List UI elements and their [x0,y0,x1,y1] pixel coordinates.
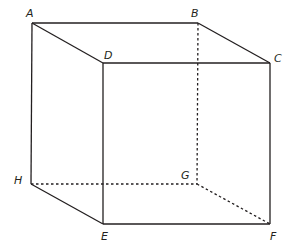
vertex-label-d: D [104,49,112,62]
vertex-label-e: E [101,230,108,243]
vertex-label-b: B [191,7,199,20]
vertex-label-g: G [181,169,190,182]
hidden-edge-GF [197,184,270,224]
vertex-label-h: H [14,174,22,187]
edge-HE [31,184,103,224]
vertex-label-c: C [274,52,282,65]
vertex-label-a: A [25,7,34,20]
hidden-edge-BG [197,23,198,184]
vertex-label-f: F [270,230,277,243]
cube-diagram: A B C D E F G H [0,0,288,250]
edge-AH [31,23,32,184]
edge-AD [32,23,103,63]
edge-BC [198,23,270,63]
